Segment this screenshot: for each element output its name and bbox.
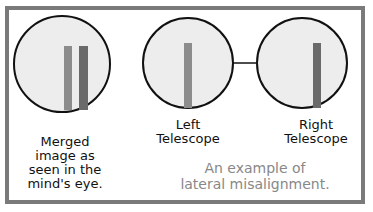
merged-right-bar: [79, 46, 88, 110]
left-telescope-label: Left Telescope: [148, 118, 228, 146]
left-telescope-bar: [184, 43, 192, 108]
right-telescope-label: Right Telescope: [276, 118, 356, 146]
right-telescope-bar: [313, 43, 321, 108]
right-telescope-circle: [257, 18, 347, 108]
merged-left-bar: [64, 46, 72, 110]
merged-label: Merged image as seen in the mind's eye.: [20, 135, 110, 191]
merged-view-circle: [14, 16, 110, 112]
caption: An example of lateral misalignment.: [170, 160, 340, 192]
